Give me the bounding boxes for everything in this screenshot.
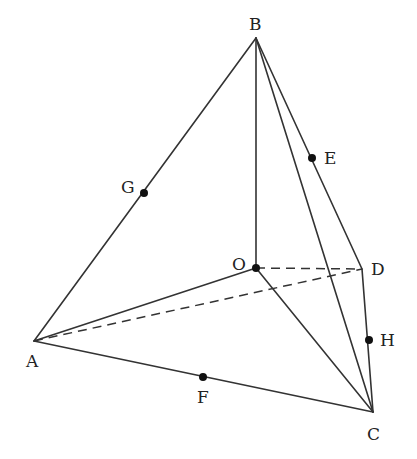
label-O: O bbox=[232, 254, 246, 274]
hidden-edge-OD bbox=[256, 268, 362, 269]
dashed-edges bbox=[34, 268, 362, 341]
solid-edges bbox=[34, 38, 373, 412]
label-G: G bbox=[121, 177, 135, 197]
tetrahedron-diagram: ABCDOGEFH bbox=[0, 0, 417, 459]
label-A: A bbox=[25, 351, 39, 371]
label-F: F bbox=[197, 387, 209, 407]
point-O-marker bbox=[252, 264, 260, 272]
label-H: H bbox=[380, 330, 395, 350]
labels: ABCDOGEFH bbox=[25, 14, 395, 444]
point-H-marker bbox=[365, 336, 373, 344]
edge-BC bbox=[256, 38, 373, 412]
label-C: C bbox=[367, 424, 380, 444]
hidden-edge-AD bbox=[34, 269, 362, 341]
point-F-marker bbox=[199, 373, 207, 381]
edge-AO bbox=[34, 268, 256, 341]
label-D: D bbox=[371, 259, 385, 279]
label-B: B bbox=[249, 14, 262, 34]
label-E: E bbox=[324, 148, 336, 168]
point-E-marker bbox=[308, 154, 316, 162]
edge-BD bbox=[256, 38, 362, 269]
point-G-marker bbox=[140, 189, 148, 197]
